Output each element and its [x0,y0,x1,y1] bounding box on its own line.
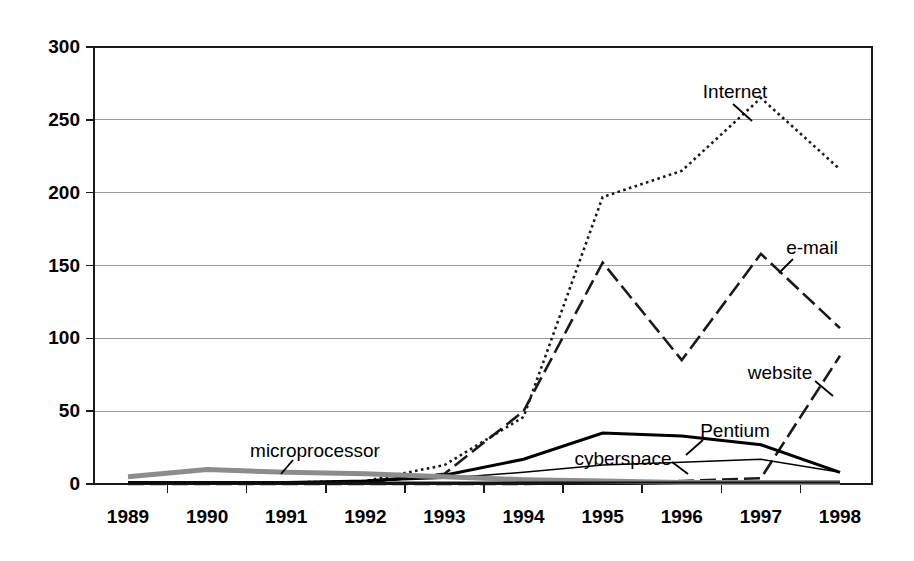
x-tick-label-1992: 1992 [344,506,386,527]
leader-line-pentium [686,440,703,455]
series-annotations: Internete-mailwebsitePentiumcyberspacemi… [250,81,838,474]
y-tick-label-0: 0 [69,473,80,494]
leader-line-cyberspace [672,462,688,474]
y-axis-tick-labels: 050100150200250300 [48,36,80,494]
series-line-microprocessor [128,469,840,482]
x-axis-tick-labels: 1989199019911992199319941995199619971998 [107,506,861,527]
x-tick-label-1995: 1995 [582,506,625,527]
x-tick-label-1998: 1998 [819,506,861,527]
x-tick-label-1989: 1989 [107,506,149,527]
y-tick-label-250: 250 [48,109,80,130]
y-tick-label-100: 100 [48,327,80,348]
x-tick-label-1994: 1994 [502,506,545,527]
x-tick-label-1993: 1993 [423,506,465,527]
y-tick-label-300: 300 [48,36,80,57]
x-tick-label-1997: 1997 [740,506,782,527]
y-tick-label-150: 150 [48,255,80,276]
annotation-pentium: Pentium [700,420,770,441]
annotation-cyberspace: cyberspace [574,448,671,469]
y-tick-label-200: 200 [48,182,80,203]
series-line-e-mail [128,254,840,483]
x-tick-label-1991: 1991 [265,506,308,527]
annotation-website: website [747,362,812,383]
x-tick-label-1996: 1996 [661,506,703,527]
annotation-microprocessor: microprocessor [250,440,381,461]
annotation-e-mail: e-mail [786,237,838,258]
chart-container: Internete-mailwebsitePentiumcyberspacemi… [0,0,914,561]
x-axis-ticks [168,484,801,493]
x-tick-label-1990: 1990 [186,506,228,527]
annotation-internet: Internet [703,81,768,102]
y-axis-ticks [86,47,94,484]
y-tick-label-50: 50 [59,400,80,421]
leader-line-internet [733,104,752,121]
line-chart: Internete-mailwebsitePentiumcyberspacemi… [0,0,914,561]
